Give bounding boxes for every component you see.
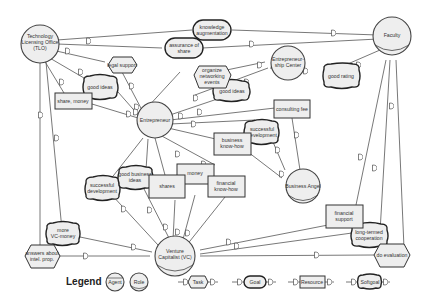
dependency-icon — [176, 151, 181, 157]
dependency-icon — [39, 112, 44, 118]
goal-label: share — [178, 48, 191, 54]
dependency-icon — [280, 171, 285, 177]
actor-label: (TLO) — [33, 45, 47, 51]
dependency-icon — [276, 147, 281, 153]
task-legal-support[interactable]: legal support — [107, 57, 137, 73]
resource-label: share, money — [57, 98, 89, 104]
task-label: intel. prop. — [30, 256, 54, 262]
dependency-icon — [235, 243, 240, 249]
legend-label: Goal — [250, 279, 261, 285]
legend-resource: Resource — [288, 276, 334, 288]
dependency-icon — [122, 206, 127, 212]
dependency-icon — [84, 253, 89, 259]
softgoal-label: ideas — [129, 177, 142, 183]
legend-label: Task — [193, 279, 204, 285]
resource-label: support — [335, 216, 353, 222]
dependency-icon — [60, 79, 65, 85]
legend-label: Softgoal — [360, 279, 379, 285]
task-label: events — [204, 79, 220, 85]
dependency-icon — [328, 279, 333, 285]
softgoal-successful-development-vc[interactable]: successful development — [85, 176, 120, 201]
dependency-icon — [179, 113, 184, 119]
dependency-icon — [238, 279, 243, 285]
softgoal-label: cooperation — [355, 235, 382, 241]
dependency-icon — [258, 62, 263, 68]
legend-softgoal: Softgoal — [346, 274, 390, 289]
actor-label: ship Center — [275, 62, 302, 68]
dependency-icon — [315, 252, 320, 258]
resource-shares[interactable]: shares — [149, 175, 185, 198]
dependency-icon — [269, 279, 274, 285]
legend-agent: Agent — [106, 273, 124, 291]
legend-role: Role — [130, 273, 148, 291]
dependency-icon — [359, 154, 364, 160]
actor-faculty[interactable]: Faculty — [373, 17, 411, 55]
dependency-icon — [184, 279, 189, 285]
dependency-icon — [79, 69, 84, 75]
dependency-icon — [134, 109, 139, 115]
task-label: do evaluation — [377, 252, 408, 258]
dependency-icon — [198, 109, 203, 115]
dependency-icon — [192, 121, 197, 127]
goal-knowledge-augmentation[interactable]: knowledge augmentation — [193, 20, 231, 40]
task-answers-about-intel-prop[interactable]: answers about intel. prop. — [25, 245, 60, 268]
legend-label: Resource — [301, 279, 323, 285]
dependency-icon — [194, 95, 199, 101]
resource-label: know-how — [220, 143, 244, 149]
resource-label: shares — [159, 183, 175, 189]
resource-label: money — [187, 170, 203, 176]
actor-business-angel[interactable]: Business Angel — [285, 169, 320, 203]
goal-assurance-of-share[interactable]: assurance of share — [165, 38, 203, 58]
resource-financial-support[interactable]: financial support — [326, 205, 363, 228]
dependency-icon — [130, 83, 135, 89]
legend-label: Agent — [108, 279, 122, 285]
task-organize-networking-events[interactable]: organize networking events — [194, 66, 231, 88]
resource-financial-know-how[interactable]: financial know-how — [208, 176, 245, 197]
actor-venture-capitalist[interactable]: Venture Capitalist (VC) — [155, 236, 195, 276]
dependency-icon — [127, 111, 132, 117]
softgoal-label: good ideas — [87, 84, 113, 90]
softgoal-label: development — [247, 132, 277, 138]
dependency-icon — [66, 48, 71, 54]
softgoal-good-business-ideas[interactable]: good business ideas — [118, 166, 153, 190]
dependency-icon — [227, 239, 232, 245]
actor-entrepreneur[interactable]: Entrepreneur — [137, 102, 173, 138]
softgoal-label: good ideas — [219, 88, 245, 94]
task-label: legal support — [107, 62, 137, 68]
softgoal-good-rating[interactable]: good rating — [323, 63, 360, 89]
dependency-icon — [332, 30, 337, 36]
goal-label: augmentation — [196, 30, 228, 36]
istar-dependency-diagram: Technology Licensing Office (TLO) Facult… — [0, 0, 430, 307]
dependency-icon — [250, 41, 255, 47]
dependency-icon — [390, 103, 395, 109]
legend: Legend Agent Role Task Goal — [66, 273, 390, 291]
resource-consulting-fee[interactable]: consulting fee — [274, 100, 310, 118]
dependency-icon — [373, 165, 378, 171]
actor-label: Entrepreneur — [140, 117, 171, 123]
actor-label: Business Angel — [285, 183, 320, 189]
dependency-icon — [132, 244, 137, 250]
dependency-icon — [186, 230, 191, 236]
dependency-icon — [295, 132, 300, 138]
actor-tlo[interactable]: Technology Licensing Office (TLO) — [21, 25, 59, 63]
dependency-icon — [164, 224, 169, 230]
actor-entrepreneurship-center[interactable]: Entrepreneur- ship Center — [271, 46, 305, 80]
resource-business-know-how[interactable]: business know-how — [214, 133, 251, 155]
softgoal-label: VC-money — [51, 233, 76, 239]
resource-label: know-how — [214, 186, 238, 192]
dependency-icon — [384, 279, 389, 285]
dependency-icon — [87, 38, 92, 44]
softgoal-label: good rating — [328, 73, 354, 79]
actor-label: Capitalist (VC) — [158, 254, 192, 260]
dependency-icon — [148, 207, 153, 213]
dependency-icon — [55, 135, 60, 141]
dependency-icon — [211, 279, 216, 285]
resource-share-money[interactable]: share, money — [55, 93, 92, 109]
legend-goal: Goal — [232, 276, 276, 288]
task-do-evaluation[interactable]: do evaluation — [374, 244, 410, 267]
actor-label: Faculty — [384, 32, 401, 38]
dependency-icon — [294, 279, 299, 285]
softgoal-more-vc-money[interactable]: more VC-money — [46, 222, 80, 246]
legend-label: Role — [134, 279, 145, 285]
dependency-icon — [176, 229, 181, 235]
